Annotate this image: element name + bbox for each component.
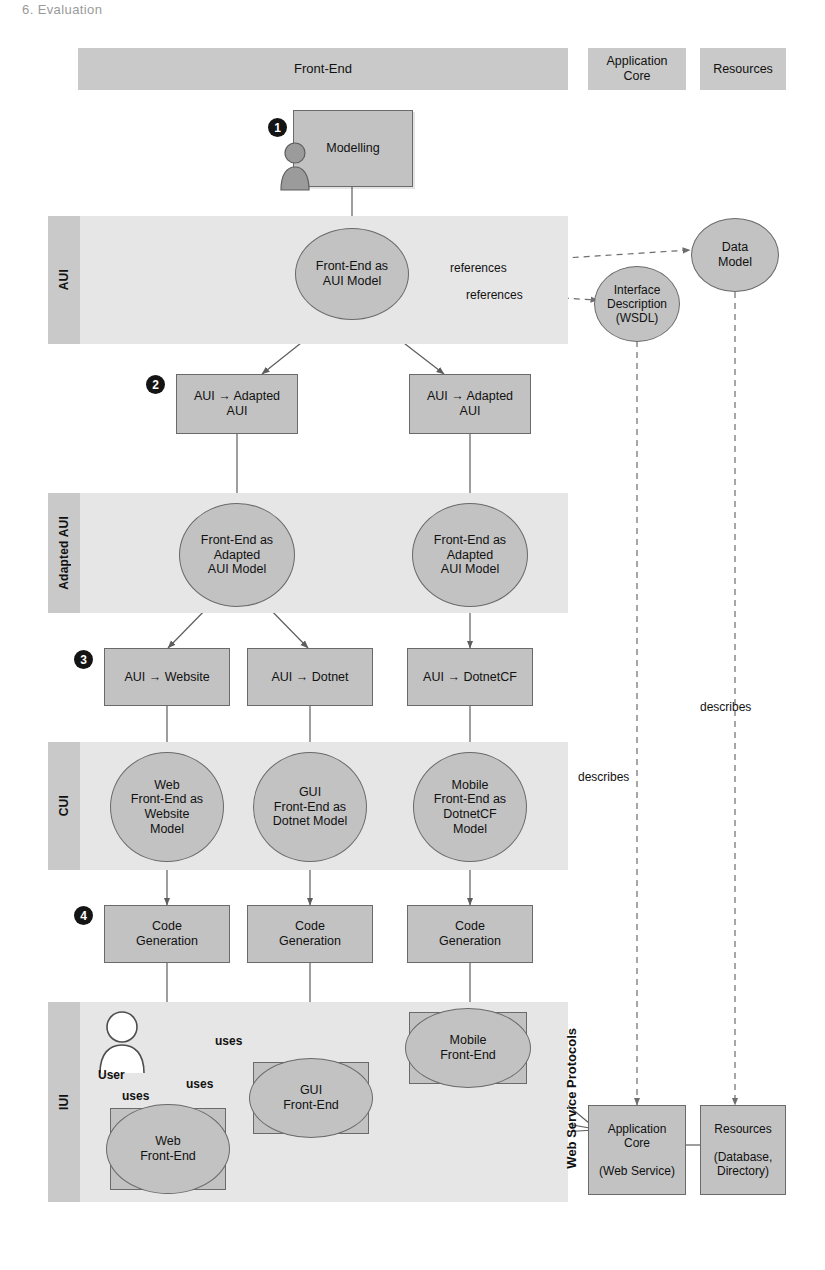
node-code-generation-2[interactable]: Code Generation [247,905,373,963]
edge-label-describes-data-model: describes [700,700,751,714]
node-aui-to-dotnetcf[interactable]: AUI → DotnetCF [407,648,533,706]
node-application-core[interactable]: Application Core (Web Service) [588,1105,686,1195]
node-front-end-as-adapted-aui-model-left[interactable]: Front-End as Adapted AUI Model [179,503,295,607]
diagram-canvas: 6. Evaluation AUI Adapted AUI CUI IUI [0,0,825,1270]
node-interface-description-wsdl[interactable]: Interface Description (WSDL) [594,266,680,342]
node-gui-front-end[interactable]: GUI Front-End [249,1058,373,1138]
lane-label-iui-text: IUI [57,1094,71,1110]
node-aui-to-dotnet[interactable]: AUI → Dotnet [247,648,373,706]
edge-label-uses-web: uses [122,1089,149,1103]
user-actor-icon [95,1010,151,1074]
edge-label-uses-mobile: uses [215,1034,242,1048]
lane-label-aui-text: AUI [57,269,71,290]
column-header-application-core: Application Core [588,48,686,90]
node-mobile-front-end[interactable]: Mobile Front-End [405,1008,531,1088]
node-front-end-as-adapted-aui-model-right[interactable]: Front-End as Adapted AUI Model [412,503,528,607]
lane-label-aui: AUI [48,216,80,344]
edge-label-uses-gui: uses [186,1077,213,1091]
node-aui-to-adapted-aui-left[interactable]: AUI → Adapted AUI [176,374,298,434]
step-badge-1: 1 [268,118,287,137]
node-resources[interactable]: Resources (Database, Directory) [700,1105,786,1195]
edge-label-web-service-protocols: Web Service Protocols [564,1028,579,1169]
node-aui-to-website[interactable]: AUI → Website [104,648,230,706]
lane-label-cui-text: CUI [57,795,71,816]
node-mobile-front-end-as-dotnetcf-model[interactable]: Mobile Front-End as DotnetCF Model [413,752,527,862]
edge-label-describes-wsdl: describes [578,770,629,784]
node-gui-front-end-as-dotnet-model[interactable]: GUI Front-End as Dotnet Model [253,752,367,862]
lane-label-iui: IUI [48,1002,80,1202]
column-header-front-end: Front-End [78,48,568,90]
modelling-actor-icon [276,140,316,192]
lane-label-adapted-aui: Adapted AUI [48,493,80,613]
step-badge-2: 2 [146,375,165,394]
node-front-end-as-aui-model[interactable]: Front-End as AUI Model [295,228,409,320]
node-code-generation-1[interactable]: Code Generation [104,905,230,963]
edge-label-references-wsdl: references [466,288,523,302]
step-badge-3: 3 [74,650,93,669]
node-code-generation-3[interactable]: Code Generation [407,905,533,963]
page-header-fragment: 6. Evaluation [22,2,102,17]
edge-label-references-data-model: references [450,261,507,275]
node-web-front-end-as-website-model[interactable]: Web Front-End as Website Model [110,752,224,862]
lane-label-adapted-aui-text: Adapted AUI [57,516,71,590]
user-actor-label: User [98,1068,125,1082]
node-web-front-end[interactable]: Web Front-End [106,1104,230,1194]
node-data-model[interactable]: Data Model [691,218,779,292]
column-header-resources: Resources [700,48,786,90]
node-aui-to-adapted-aui-right[interactable]: AUI → Adapted AUI [409,374,531,434]
step-badge-4: 4 [74,906,93,925]
lane-label-cui: CUI [48,742,80,870]
